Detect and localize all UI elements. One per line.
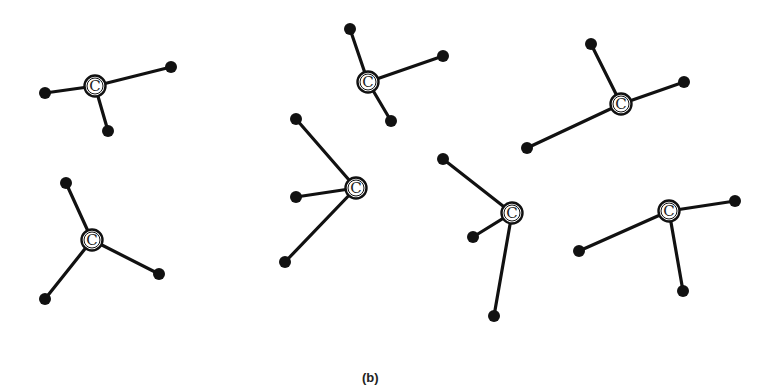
bond <box>669 211 683 291</box>
carbon-atom-label: C <box>86 231 97 249</box>
terminal-atom-icon <box>344 23 356 35</box>
molecule-4: C <box>39 177 165 305</box>
molecule-3: C <box>521 38 690 154</box>
terminal-atom-icon <box>39 293 51 305</box>
terminal-atom-icon <box>290 191 302 203</box>
terminal-atom-icon <box>437 50 449 62</box>
bond <box>95 67 171 86</box>
molecule-diagram: CCCCCCC <box>0 0 779 385</box>
terminal-atom-icon <box>521 142 533 154</box>
terminal-atom-icon <box>729 195 741 207</box>
terminal-atom-icon <box>678 76 690 88</box>
terminal-atom-icon <box>677 285 689 297</box>
figure-caption: (b) <box>362 370 379 385</box>
bond <box>443 159 512 213</box>
carbon-atom-label: C <box>350 179 361 197</box>
terminal-atom-icon <box>585 38 597 50</box>
terminal-atom-icon <box>39 87 51 99</box>
molecule-5: C <box>279 113 367 268</box>
bond <box>527 104 621 148</box>
carbon-atom-label: C <box>89 77 100 95</box>
molecule-6: C <box>437 153 523 322</box>
terminal-atom-icon <box>488 310 500 322</box>
terminal-atom-icon <box>153 268 165 280</box>
terminal-atom-icon <box>437 153 449 165</box>
bond <box>296 119 356 188</box>
carbon-atom-label: C <box>362 73 373 91</box>
terminal-atom-icon <box>279 256 291 268</box>
carbon-atom-label: C <box>663 202 674 220</box>
molecule-2: C <box>344 23 449 127</box>
molecule-1: C <box>39 61 177 137</box>
terminal-atom-icon <box>467 231 479 243</box>
terminal-atom-icon <box>165 61 177 73</box>
bond <box>368 56 443 82</box>
carbon-atom-label: C <box>615 95 626 113</box>
bond <box>579 211 669 251</box>
terminal-atom-icon <box>290 113 302 125</box>
carbon-atom-label: C <box>506 204 517 222</box>
terminal-atom-icon <box>385 115 397 127</box>
molecule-7: C <box>573 195 741 297</box>
bond <box>494 213 512 316</box>
terminal-atom-icon <box>102 125 114 137</box>
terminal-atom-icon <box>573 245 585 257</box>
terminal-atom-icon <box>60 177 72 189</box>
